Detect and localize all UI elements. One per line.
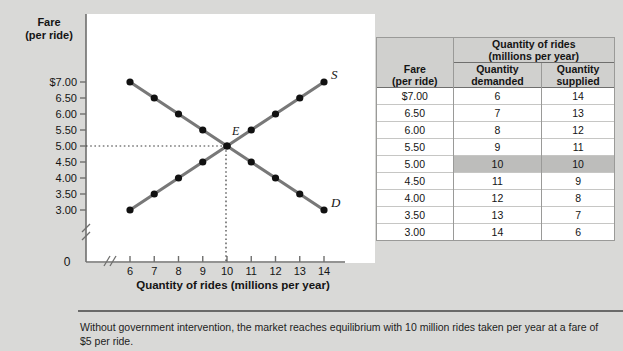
cell-quantity-supplied: 8: [542, 190, 614, 207]
data-point-marker: [175, 110, 182, 117]
x-axis-break-icon: [104, 256, 116, 266]
header-quantity-group-line1: Quantity of rides: [454, 38, 614, 50]
header-quantity-group: Quantity of rides (millions per year): [453, 38, 614, 63]
table-row: 3.50137: [377, 207, 614, 224]
data-point-marker: [296, 94, 303, 101]
y-tick-label: $7.00: [49, 76, 77, 88]
origin-label: 0: [64, 255, 71, 269]
header-quantity-demanded: Quantity demanded: [453, 63, 542, 88]
cell-fare: 5.50: [377, 139, 453, 156]
x-tick-label: 13: [294, 265, 306, 277]
table-row: 5.001010: [377, 156, 614, 173]
data-point-marker: [151, 94, 158, 101]
header-fare-line2: (per ride): [377, 75, 453, 87]
data-point-markers: [126, 78, 327, 213]
header-quantity-group-line2: (millions per year): [454, 50, 614, 62]
table-row: 5.50911: [377, 139, 614, 156]
x-tick-label: 8: [175, 265, 181, 277]
cell-quantity-demanded: 12: [453, 190, 542, 207]
curve-labels: DS: [330, 67, 341, 210]
data-point-marker: [248, 158, 255, 165]
table-row: 3.00146: [377, 224, 614, 241]
y-tick-label: 5.00: [56, 140, 77, 152]
table-row: 4.50119: [377, 173, 614, 190]
data-point-marker: [272, 110, 279, 117]
cell-quantity-demanded: 8: [453, 122, 542, 139]
cell-quantity-supplied: 9: [542, 173, 614, 190]
cell-fare: 4.50: [377, 173, 453, 190]
table-head: Fare (per ride) Quantity of rides (milli…: [377, 38, 614, 88]
header-quantity-demanded-line1: Quantity: [454, 63, 542, 75]
cell-quantity-supplied: 13: [542, 105, 614, 122]
cell-quantity-supplied: 14: [542, 88, 614, 105]
table-row: $7.00614: [377, 88, 614, 105]
table-row: 6.00812: [377, 122, 614, 139]
table-row: 6.50713: [377, 105, 614, 122]
supply-demand-table-container: Fare (per ride) Quantity of rides (milli…: [376, 37, 615, 241]
cell-fare: 5.00: [377, 156, 453, 173]
data-point-marker: [272, 174, 279, 181]
data-point-marker: [223, 142, 230, 149]
y-tick-label: 4.00: [56, 172, 77, 184]
supply-demand-table: Fare (per ride) Quantity of rides (milli…: [377, 38, 614, 240]
curve-label-d: D: [330, 195, 341, 210]
cell-fare: 4.00: [377, 190, 453, 207]
x-tick-label: 9: [200, 265, 206, 277]
figure-container: Fare (per ride) Quantity of rides (milli…: [0, 0, 623, 351]
chart-axes: [82, 14, 345, 266]
cell-quantity-supplied: 11: [542, 139, 614, 156]
x-tick-label: 7: [151, 265, 157, 277]
header-fare: Fare (per ride): [377, 38, 453, 88]
cell-quantity-supplied: 6: [542, 224, 614, 241]
x-tick-label: 11: [246, 265, 257, 277]
cell-fare: 3.00: [377, 224, 453, 241]
data-point-marker: [151, 190, 158, 197]
cell-quantity-supplied: 10: [542, 156, 614, 173]
header-quantity-supplied-line1: Quantity: [542, 63, 614, 75]
cell-quantity-demanded: 13: [453, 207, 542, 224]
cell-fare: 3.50: [377, 207, 453, 224]
cell-quantity-demanded: 9: [453, 139, 542, 156]
y-tick-label: 4.50: [56, 156, 77, 168]
caption-divider: [78, 310, 623, 312]
cell-quantity-supplied: 7: [542, 207, 614, 224]
data-point-marker: [126, 206, 133, 213]
x-axis-ticks: 67891011121314: [127, 256, 330, 277]
figure-caption: Without government intervention, the mar…: [80, 320, 610, 348]
cell-fare: 6.00: [377, 122, 453, 139]
x-tick-label: 12: [269, 265, 281, 277]
data-point-marker: [296, 190, 303, 197]
data-point-marker: [175, 174, 182, 181]
data-point-marker: [320, 78, 327, 85]
cell-quantity-demanded: 6: [453, 88, 542, 105]
table-body: $7.006146.507136.008125.509115.0010104.5…: [377, 88, 614, 241]
cell-quantity-demanded: 11: [453, 173, 542, 190]
y-tick-label: 6.00: [56, 108, 77, 120]
header-quantity-demanded-line2: demanded: [454, 75, 542, 87]
cell-quantity-demanded: 14: [453, 224, 542, 241]
y-tick-label: 3.50: [56, 188, 77, 200]
data-point-marker: [248, 126, 255, 133]
data-point-marker: [320, 206, 327, 213]
y-tick-label: 5.50: [56, 124, 77, 136]
y-axis-ticks: $7.006.506.005.505.004.504.003.503.00: [49, 76, 86, 216]
table-row: 4.00128: [377, 190, 614, 207]
header-quantity-supplied: Quantity supplied: [542, 63, 614, 88]
curve-label-s: S: [331, 67, 338, 82]
x-tick-label: 10: [221, 265, 233, 277]
cell-quantity-supplied: 12: [542, 122, 614, 139]
header-quantity-supplied-line2: supplied: [542, 75, 614, 87]
data-point-marker: [199, 126, 206, 133]
header-fare-line1: Fare: [377, 63, 453, 75]
x-tick-label: 14: [318, 265, 330, 277]
cell-quantity-demanded: 7: [453, 105, 542, 122]
x-tick-label: 6: [127, 265, 133, 277]
cell-fare: 6.50: [377, 105, 453, 122]
cell-quantity-demanded: 10: [453, 156, 542, 173]
cell-fare: $7.00: [377, 88, 453, 105]
equilibrium-point-label: E: [231, 124, 240, 138]
y-tick-label: 6.50: [56, 92, 77, 104]
data-point-marker: [199, 158, 206, 165]
table-header-row-top: Fare (per ride) Quantity of rides (milli…: [377, 38, 614, 63]
data-point-marker: [126, 78, 133, 85]
